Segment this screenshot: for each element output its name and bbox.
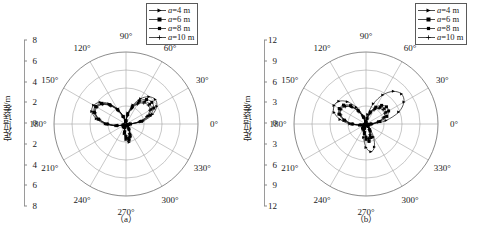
legend-item[interactable]: a=10 m: [149, 33, 194, 42]
y-tick-mark: [264, 60, 267, 61]
panel-a: 定位误差/m 864202468 a=4 ma=6 ma=8 ma=10 m （…: [0, 0, 240, 234]
angle-tick-30: 30°: [436, 76, 449, 85]
y-tick-mark: [24, 40, 27, 41]
legend-marker-icon: [418, 24, 435, 33]
y-tick-mark: [264, 123, 267, 124]
y-axis-label-a: 定位误差/m: [2, 72, 16, 164]
legend-marker-icon: [418, 33, 435, 42]
legend-item[interactable]: a=10 m: [418, 33, 463, 42]
y-tick-mark: [24, 185, 27, 186]
angle-tick-120: 120°: [73, 43, 90, 52]
legend-marker-icon: [149, 15, 166, 24]
angle-tick-0: 0°: [450, 120, 458, 129]
y-tick-label: 4: [17, 160, 37, 169]
angle-tick-60: 60°: [164, 43, 177, 52]
legend-marker-icon: [149, 6, 166, 15]
y-tick-label: 8: [17, 36, 37, 45]
y-tick-label: 6: [257, 160, 277, 169]
y-tick-label: 9: [257, 181, 277, 190]
y-tick-mark: [264, 206, 267, 207]
angle-tick-270: 270°: [357, 208, 374, 217]
y-tick-label: 9: [257, 56, 277, 65]
y-tick-mark: [24, 81, 27, 82]
angle-tick-240: 240°: [73, 196, 90, 205]
y-tick-label: 3: [257, 98, 277, 107]
legend-label: a=10 m: [437, 33, 463, 42]
y-tick-label: 2: [17, 139, 37, 148]
angle-tick-300: 300°: [401, 196, 418, 205]
y-tick-mark: [264, 81, 267, 82]
angle-tick-120: 120°: [313, 43, 330, 52]
polar-axes: [278, 36, 454, 212]
angle-tick-210: 210°: [281, 164, 298, 173]
y-tick-mark: [264, 164, 267, 165]
y-tick-label: 6: [257, 77, 277, 86]
y-tick-mark: [24, 164, 27, 165]
y-tick-mark: [264, 185, 267, 186]
angle-tick-240: 240°: [313, 196, 330, 205]
y-tick-mark: [264, 40, 267, 41]
y-tick-mark: [24, 60, 27, 61]
angle-tick-90: 90°: [120, 32, 133, 41]
legend-a: a=4 ma=6 ma=8 ma=10 m: [146, 3, 198, 45]
angle-tick-330: 330°: [194, 164, 211, 173]
legend-marker-icon: [418, 6, 435, 15]
y-tick-label: 12: [257, 202, 277, 211]
y-axis-label-b: 定位误差/m: [242, 72, 256, 164]
polar-axes: [38, 36, 214, 212]
panel-b: 定位误差/m 12963036912 a=4 ma=6 ma=8 ma=10 m…: [240, 0, 480, 234]
angle-tick-270: 270°: [117, 208, 134, 217]
y-tick-label: 2: [17, 98, 37, 107]
y-tick-mark: [264, 143, 267, 144]
figure-polar-positioning-error: 定位误差/m 864202468 a=4 ma=6 ma=8 ma=10 m （…: [0, 0, 481, 234]
legend-label: a=10 m: [168, 33, 194, 42]
legend-marker-icon: [149, 24, 166, 33]
y-tick-label: 3: [257, 139, 277, 148]
y-tick-label: 4: [17, 77, 37, 86]
angle-tick-210: 210°: [41, 164, 58, 173]
angle-tick-0: 0°: [210, 120, 218, 129]
angle-tick-30: 30°: [196, 76, 209, 85]
y-tick-mark: [24, 123, 27, 124]
angle-tick-150: 150°: [281, 76, 298, 85]
y-tick-label: 8: [17, 202, 37, 211]
y-tick-label: 12: [257, 36, 277, 45]
legend-marker-icon: [418, 15, 435, 24]
angle-tick-60: 60°: [404, 43, 417, 52]
angle-tick-300: 300°: [161, 196, 178, 205]
y-tick-mark: [264, 102, 267, 103]
angle-tick-150: 150°: [41, 76, 58, 85]
legend-b: a=4 ma=6 ma=8 ma=10 m: [415, 3, 467, 45]
angle-tick-180: 180°: [269, 120, 286, 129]
polar-plot-b: [278, 36, 454, 212]
y-tick-label: 6: [17, 181, 37, 190]
y-tick-label: 6: [17, 56, 37, 65]
y-tick-mark: [24, 143, 27, 144]
legend-marker-icon: [149, 33, 166, 42]
angle-tick-180: 180°: [29, 120, 46, 129]
y-tick-mark: [24, 102, 27, 103]
angle-tick-90: 90°: [360, 32, 373, 41]
y-tick-mark: [24, 206, 27, 207]
polar-plot-a: [38, 36, 214, 212]
angle-tick-330: 330°: [434, 164, 451, 173]
